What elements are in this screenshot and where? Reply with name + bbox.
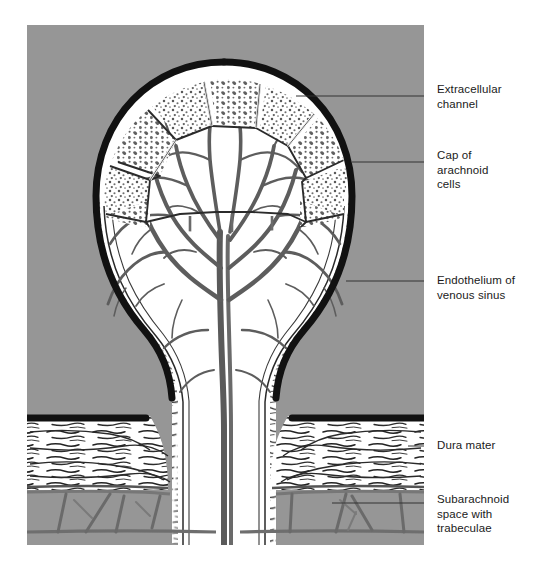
label-endothelium-of-venous-sinus: Endothelium of venous sinus <box>437 273 515 302</box>
lower-membrane-right <box>240 531 424 532</box>
label-dura-mater: Dura mater <box>437 438 496 453</box>
label-cap-of-arachnoid-cells: Cap of arachnoid cells <box>437 148 488 192</box>
label-extracellular-channel: Extracellular channel <box>437 82 502 111</box>
figure-canvas: Extracellular channel Cap of arachnoid c… <box>0 0 539 583</box>
lower-membrane-left <box>27 531 216 532</box>
label-subarachnoid-space-with-trabeculae: Subarachnoid space with trabeculae <box>437 492 509 536</box>
